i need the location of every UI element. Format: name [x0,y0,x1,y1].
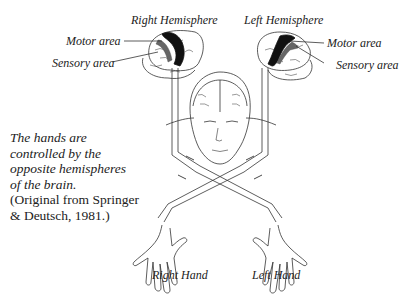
caption-line: controlled by the [10,146,160,162]
citation-line: & Deutsch, 1981.) [10,208,160,224]
nerve-pathway-left-hemisphere [158,68,268,222]
caption-line: opposite hemispheres [10,161,160,177]
nerve-pathway-right-hemisphere [172,68,282,222]
citation-line: (Original from Springer [10,192,160,208]
head-figure [166,72,276,164]
left-hemisphere-brain [257,32,312,80]
right-hand-label: Right Hand [152,268,208,282]
motor-area-label-right-hemisphere: Motor area [66,34,121,48]
sensory-area-label-right-hemisphere: Sensory area [52,56,115,70]
sensory-area-label-left-hemisphere: Sensory area [336,58,399,72]
right-hemisphere-label: Right Hemisphere [131,13,218,27]
right-hemisphere-brain [142,31,203,79]
caption-line: of the brain. [10,177,160,193]
left-hemisphere-label: Left Hemisphere [244,13,323,27]
figure-caption: The hands are controlled by the opposite… [10,130,160,223]
right-hand-drawing [133,225,187,293]
motor-area-label-left-hemisphere: Motor area [327,36,382,50]
left-hand-label: Left Hand [252,268,300,282]
left-hand-drawing [253,225,307,293]
caption-line: The hands are [10,130,160,146]
